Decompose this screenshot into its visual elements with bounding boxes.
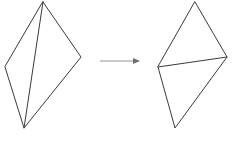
left-quadrilateral-fill (5, 2, 81, 128)
left-quadrilateral (5, 2, 81, 128)
diagram-canvas (0, 0, 237, 143)
transform-arrow (100, 58, 140, 64)
transform-arrow-head-icon (133, 58, 140, 64)
diagram-vector-surface (0, 0, 237, 143)
right-quadrilateral (158, 2, 227, 128)
